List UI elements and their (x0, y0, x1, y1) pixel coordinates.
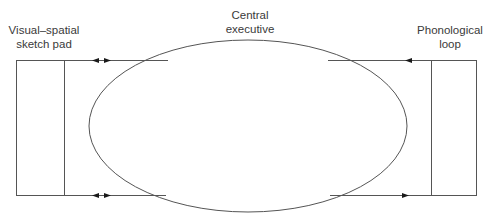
phonological-loop-label: Phonological loop (408, 23, 492, 51)
central-executive-ellipse (89, 40, 407, 212)
working-memory-diagram: Visual–spatial sketch pad Central execut… (0, 0, 493, 213)
arrow-right-icon (104, 58, 111, 63)
sketch-pad-label-line2: sketch pad (0, 37, 88, 51)
sketch-pad-box (17, 61, 65, 196)
arrow-right-icon (402, 193, 409, 198)
arrow-left-icon (405, 58, 412, 63)
sketch-pad-label-line1: Visual–spatial (0, 23, 88, 37)
arrow-left-icon (92, 58, 99, 63)
arrow-left-icon (92, 193, 99, 198)
central-executive-label-line2: executive (208, 22, 292, 36)
central-executive-label-line1: Central (208, 8, 292, 22)
phonological-loop-box (432, 61, 477, 196)
sketch-pad-label: Visual–spatial sketch pad (0, 23, 88, 51)
central-executive-label: Central executive (208, 8, 292, 36)
phonological-loop-label-line1: Phonological (408, 23, 492, 37)
arrow-right-icon (104, 193, 111, 198)
phonological-loop-label-line2: loop (408, 37, 492, 51)
